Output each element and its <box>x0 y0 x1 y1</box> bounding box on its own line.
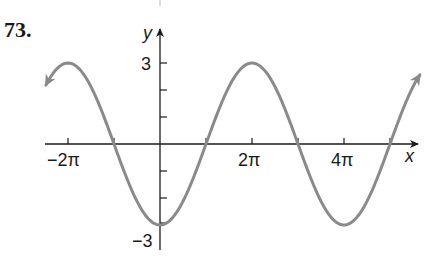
y-tick-label-neg3: −3 <box>132 231 153 251</box>
y-tick-label-3: 3 <box>141 54 151 74</box>
x-ticks <box>68 138 390 144</box>
x-tick-label-neg2pi: −2π <box>47 150 80 170</box>
sinusoid-graph: y 3 −3 −2π 2π 4π x <box>0 0 441 259</box>
x-tick-label-4pi: 4π <box>331 150 353 170</box>
x-tick-label-2pi: 2π <box>238 150 260 170</box>
y-ticks <box>160 63 167 223</box>
x-axis-label: x <box>404 146 415 166</box>
y-axis-label: y <box>141 23 153 43</box>
